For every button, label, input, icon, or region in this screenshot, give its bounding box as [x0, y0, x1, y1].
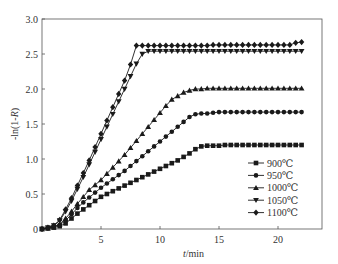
- square-marker: [75, 211, 80, 216]
- square-marker: [122, 183, 127, 188]
- square-marker: [152, 169, 157, 174]
- circle-marker: [81, 200, 86, 205]
- square-marker: [252, 143, 257, 148]
- square-marker: [181, 155, 186, 160]
- square-marker: [69, 216, 74, 221]
- circle-marker: [164, 134, 169, 139]
- diamond-marker: [146, 43, 151, 49]
- y-tick-label: 2.5: [26, 49, 39, 60]
- y-tick-label: 0.5: [26, 189, 39, 200]
- square-marker: [288, 143, 293, 148]
- square-marker: [128, 181, 133, 186]
- y-axis-title: -ln(1-R): [9, 108, 21, 140]
- diamond-marker: [193, 43, 198, 49]
- diamond-marker: [199, 43, 204, 49]
- diamond-marker: [252, 42, 257, 48]
- triangle-up-marker: [175, 93, 181, 98]
- circle-marker: [293, 110, 298, 115]
- diamond-marker: [181, 43, 186, 49]
- diamond-marker: [187, 43, 192, 49]
- square-marker: [158, 167, 163, 172]
- square-marker: [140, 175, 145, 180]
- circle-marker: [199, 111, 204, 116]
- x-tick-label: 10: [155, 234, 165, 245]
- triangle-down-marker: [122, 87, 128, 92]
- square-marker: [105, 192, 110, 197]
- diamond-marker: [287, 42, 292, 48]
- diamond-marker: [246, 42, 251, 48]
- square-marker: [246, 143, 251, 148]
- circle-marker: [158, 139, 163, 144]
- diamond-marker: [258, 42, 263, 48]
- circle-marker: [134, 159, 139, 164]
- x-tick-label: 20: [273, 234, 283, 245]
- legend-item: 1000℃: [248, 182, 298, 193]
- circle-marker: [299, 110, 304, 115]
- diamond-marker: [92, 144, 97, 150]
- diamond-marker: [264, 42, 269, 48]
- square-marker: [134, 178, 139, 183]
- series-line: [42, 88, 302, 229]
- diamond-marker: [134, 43, 139, 49]
- square-marker: [87, 203, 92, 208]
- circle-marker: [240, 110, 245, 115]
- circle-marker: [116, 173, 121, 178]
- circle-marker: [140, 154, 145, 159]
- circle-marker: [205, 111, 210, 116]
- circle-marker: [282, 110, 287, 115]
- diamond-marker: [275, 42, 280, 48]
- circle-marker: [187, 115, 192, 120]
- y-tick-label: 0: [33, 224, 38, 235]
- square-marker: [187, 151, 192, 156]
- square-marker: [164, 164, 169, 169]
- diamond-marker: [169, 43, 174, 49]
- circle-marker: [128, 164, 133, 169]
- diamond-marker: [281, 42, 286, 48]
- square-marker: [270, 143, 275, 148]
- circle-marker: [122, 169, 127, 174]
- diamond-marker: [116, 91, 121, 97]
- triangle-down-marker: [134, 62, 140, 67]
- legend-label: 950℃: [267, 170, 293, 181]
- legend: 900℃950℃1000℃1050℃1100℃: [248, 158, 298, 219]
- square-marker: [146, 172, 151, 177]
- diamond-marker: [222, 42, 227, 48]
- square-marker: [211, 143, 216, 148]
- circle-marker: [193, 112, 198, 117]
- square-marker: [175, 158, 180, 163]
- square-marker: [276, 143, 281, 148]
- kinetics-line-chart: 00.51.01.52.02.53.05101520t/min-ln(1-R) …: [0, 0, 338, 264]
- square-marker: [116, 186, 121, 191]
- diamond-marker: [210, 42, 215, 48]
- circle-marker: [99, 185, 104, 190]
- circle-marker: [181, 120, 186, 125]
- circle-marker: [223, 110, 228, 115]
- circle-marker: [87, 195, 92, 200]
- circle-marker: [111, 177, 116, 182]
- square-marker: [299, 143, 304, 148]
- y-tick-label: 2.0: [26, 84, 39, 95]
- diamond-marker: [269, 42, 274, 48]
- square-marker: [217, 143, 222, 148]
- circle-marker: [105, 181, 110, 186]
- square-marker: [199, 144, 204, 149]
- legend-label: 1050℃: [267, 195, 298, 206]
- legend-item: 950℃: [248, 170, 293, 181]
- y-tick-label: 1.5: [26, 119, 39, 130]
- diamond-marker: [128, 61, 133, 67]
- diamond-marker: [175, 43, 180, 49]
- circle-marker: [246, 110, 251, 115]
- series-line: [42, 42, 302, 229]
- circle-marker: [152, 144, 157, 149]
- diamond-marker: [234, 42, 239, 48]
- circle-marker: [211, 111, 216, 116]
- square-marker: [193, 147, 198, 152]
- x-tick-label: 15: [214, 234, 224, 245]
- square-marker: [170, 161, 175, 166]
- series-1100C: [39, 39, 304, 232]
- diamond-marker: [122, 78, 127, 84]
- triangle-down-marker: [128, 74, 134, 79]
- square-marker: [240, 143, 245, 148]
- circle-marker: [276, 110, 281, 115]
- series-line: [42, 51, 302, 229]
